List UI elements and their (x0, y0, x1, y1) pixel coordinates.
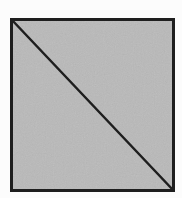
diagram-canvas (0, 0, 182, 198)
square-diagram (0, 0, 182, 198)
